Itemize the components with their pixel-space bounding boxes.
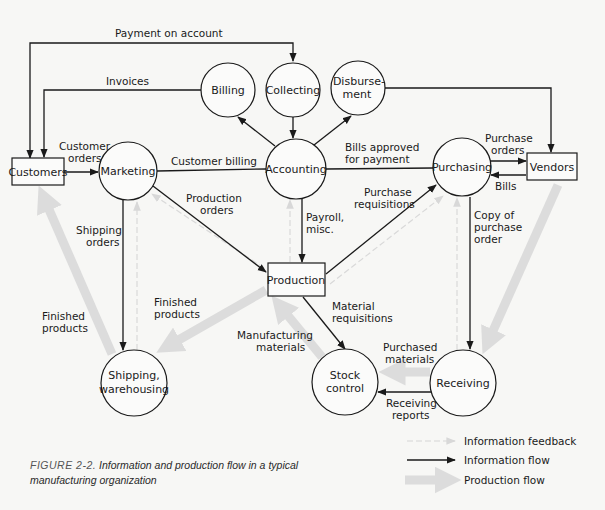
edge-label-receiving-reports-2: reports bbox=[392, 409, 430, 421]
label-stock-2: control bbox=[326, 382, 364, 395]
flow-accounting-to-billing bbox=[238, 117, 275, 146]
label-disbursement-1: Disburse- bbox=[333, 75, 385, 88]
edge-label-material-req-1: Material bbox=[332, 300, 375, 312]
label-billing: Billing bbox=[211, 84, 245, 97]
edge-label-copy-po-3: order bbox=[474, 233, 503, 245]
edge-label-shipping-orders-1: Shipping bbox=[76, 224, 122, 236]
flow-customer-billing bbox=[157, 169, 266, 171]
edge-label-copy-po-1: Copy of bbox=[474, 209, 514, 221]
label-shipping-2: warehousing bbox=[99, 383, 169, 396]
label-receiving: Receiving bbox=[436, 377, 489, 390]
label-accounting: Accounting bbox=[265, 163, 326, 176]
edge-label-purchased-1: Purchased bbox=[383, 341, 437, 353]
edge-label-payroll-1: Payroll, bbox=[306, 211, 344, 223]
legend-info-label: Information flow bbox=[464, 454, 550, 466]
edge-label-manufacturing-2: materials bbox=[256, 341, 305, 353]
label-shipping-1: Shipping, bbox=[108, 369, 159, 382]
label-disbursement-2: ment bbox=[343, 88, 372, 101]
legend-feedback-label: Information feedback bbox=[464, 435, 577, 447]
edge-label-finished-left-2: products bbox=[42, 322, 88, 334]
edge-label-production-orders-1: Production bbox=[186, 192, 242, 204]
flow-diagram: Customers Marketing Billing Collecting D… bbox=[0, 0, 605, 510]
edge-label-finished-mid-1: Finished bbox=[154, 296, 197, 308]
label-stock-1: Stock bbox=[330, 369, 361, 382]
edge-label-material-req-2: requisitions bbox=[332, 312, 393, 324]
figure-caption-line1: Information and production flow in a typ… bbox=[99, 459, 298, 471]
edge-label-customer-billing: Customer billing bbox=[171, 155, 257, 167]
flow-bills-approved bbox=[326, 168, 433, 169]
edge-label-receiving-reports-1: Receiving bbox=[386, 397, 437, 409]
edge-label-purchased-2: materials bbox=[385, 353, 434, 365]
label-purchasing: Purchasing bbox=[432, 161, 492, 174]
edge-label-copy-po-2: purchase bbox=[474, 221, 522, 233]
edge-label-purchase-orders-1: Purchase bbox=[485, 132, 533, 144]
edge-label-bills-approved-2: for payment bbox=[345, 153, 410, 165]
edge-label-finished-mid-2: products bbox=[154, 308, 200, 320]
edge-label-invoices: Invoices bbox=[106, 75, 149, 87]
edge-label-payment: Payment on account bbox=[115, 27, 223, 39]
edge-label-bills: Bills bbox=[495, 180, 516, 192]
edge-label-purchase-req-1: Purchase bbox=[364, 186, 412, 198]
edge-label-purchase-orders-2: orders bbox=[491, 144, 524, 156]
label-collecting: Collecting bbox=[266, 84, 321, 97]
label-production: Production bbox=[267, 274, 326, 287]
label-vendors: Vendors bbox=[530, 161, 575, 174]
label-marketing: Marketing bbox=[101, 165, 156, 178]
figure-caption: FIGURE 2-2. Information and production f… bbox=[30, 458, 330, 488]
edge-label-production-orders-2: orders bbox=[200, 204, 233, 216]
edge-label-customer-orders-1: Customer bbox=[59, 140, 111, 152]
legend: Information feedback Information flow Pr… bbox=[405, 435, 577, 486]
edge-label-purchase-req-2: requisitions bbox=[354, 198, 415, 210]
edge-label-manufacturing-1: Manufacturing bbox=[237, 329, 313, 341]
figure-caption-line2: manufacturing organization bbox=[30, 474, 157, 486]
label-customers: Customers bbox=[8, 166, 67, 179]
edge-label-shipping-orders-2: orders bbox=[86, 236, 119, 248]
legend-production-label: Production flow bbox=[464, 474, 545, 486]
edge-label-bills-approved-1: Bills approved bbox=[345, 141, 419, 153]
edge-label-customer-orders-2: orders bbox=[68, 152, 101, 164]
edge-label-payroll-2: misc. bbox=[306, 223, 334, 235]
figure-number: FIGURE 2-2. bbox=[30, 459, 96, 471]
edge-label-finished-left-1: Finished bbox=[42, 310, 85, 322]
